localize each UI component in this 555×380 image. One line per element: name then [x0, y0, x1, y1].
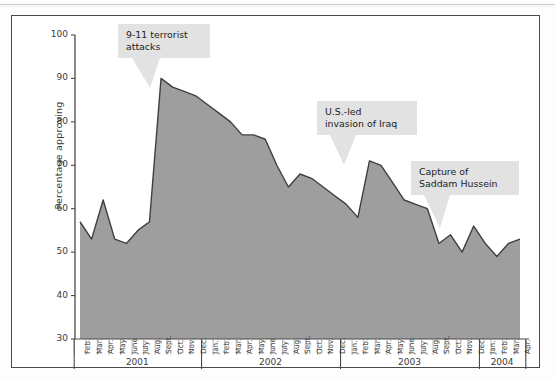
x-month-label: May	[257, 339, 266, 354]
x-month-label: Feb.	[361, 339, 370, 354]
x-month-label: Oct.	[454, 339, 463, 354]
y-tick-label-100: 100	[42, 29, 68, 39]
x-month-label: Oct.	[176, 339, 185, 354]
x-month-label: Aug.	[431, 337, 440, 354]
x-month-label: May	[118, 339, 127, 354]
x-month-label: July	[280, 341, 289, 354]
x-month-label: Nov.	[465, 338, 474, 354]
x-month-label: Dec.	[199, 338, 208, 354]
x-month-label: Sept.	[303, 335, 312, 354]
x-month-label: Sept.	[442, 335, 451, 354]
y-tick-label-80: 80	[42, 116, 68, 126]
x-month-label: Apr.	[245, 340, 254, 354]
x-month-label: Dec.	[338, 338, 347, 354]
x-month-label: Jan.	[350, 340, 359, 354]
x-month-label: Jan.	[488, 340, 497, 354]
x-month-label: Mar.	[95, 339, 104, 354]
x-month-label: Aug.	[292, 337, 301, 354]
callout-nine-eleven: 9-11 terrorist attacks	[118, 24, 210, 58]
x-month-label: Oct.	[315, 339, 324, 354]
callout-saddam-capture: Capture of Saddam Hussein	[411, 161, 519, 195]
x-month-label: Feb.	[222, 339, 231, 354]
x-month-label: Apr.	[384, 340, 393, 354]
y-tick-label-70: 70	[42, 159, 68, 169]
chart-screenshot: Percentage approving 30405060708090100 F…	[0, 0, 555, 380]
x-month-label: Dec.	[477, 338, 486, 354]
y-tick-label-30: 30	[42, 333, 68, 343]
x-year-label-2001: 2001	[126, 357, 149, 367]
x-month-label: Apr.	[523, 340, 532, 354]
iraq-invasion-tail	[330, 135, 356, 165]
x-month-label: May	[396, 339, 405, 354]
x-month-label: Jan.	[211, 340, 220, 354]
callout-iraq-invasion: U.S.-led invasion of Iraq	[317, 101, 417, 135]
area-fill	[80, 78, 520, 339]
x-year-label-2004: 2004	[491, 357, 514, 367]
x-month-label: Mar.	[512, 339, 521, 354]
x-month-label: June	[407, 338, 416, 354]
x-month-label: Nov.	[187, 338, 196, 354]
x-month-label: Sept.	[164, 335, 173, 354]
x-month-label: Apr.	[106, 340, 115, 354]
x-month-label: Mar.	[234, 339, 243, 354]
x-month-label: Mar.	[373, 339, 382, 354]
x-month-label: July	[419, 341, 428, 354]
y-tick-label-50: 50	[42, 246, 68, 256]
x-month-label: June	[130, 338, 139, 354]
y-tick-label-90: 90	[42, 72, 68, 82]
x-month-label: Feb.	[500, 339, 509, 354]
y-tick-label-60: 60	[42, 203, 68, 213]
x-year-label-2003: 2003	[398, 357, 421, 367]
x-month-label: Nov.	[326, 338, 335, 354]
x-month-label: July	[141, 341, 150, 354]
x-year-label-2002: 2002	[259, 357, 282, 367]
x-month-label: June	[268, 338, 277, 354]
x-month-label: Aug.	[153, 337, 162, 354]
y-tick-label-40: 40	[42, 290, 68, 300]
x-month-label: Feb.	[83, 339, 92, 354]
nine-eleven-tail	[132, 58, 160, 88]
